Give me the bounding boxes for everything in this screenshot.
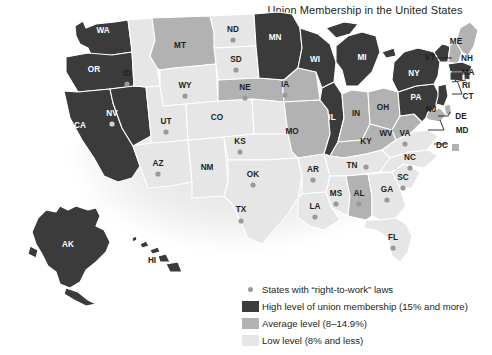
label-WA: WA xyxy=(96,26,109,35)
legend-row-low[interactable]: Low level (8% and less) xyxy=(238,332,490,349)
label-GA: GA xyxy=(381,185,393,194)
map-figure: Union Membership in the United States xyxy=(0,0,492,355)
label-UT: UT xyxy=(161,117,172,126)
label-VT: VT xyxy=(425,53,435,62)
rtw-dot-KS xyxy=(237,149,242,154)
label-NM: NM xyxy=(201,163,214,172)
label-DE: DE xyxy=(455,112,467,121)
label-NC: NC xyxy=(404,153,416,162)
label-MI: MI xyxy=(357,53,366,62)
label-MT: MT xyxy=(174,41,186,50)
label-PA: PA xyxy=(411,93,422,102)
label-OH: OH xyxy=(377,103,389,112)
label-MN: MN xyxy=(269,33,282,42)
label-AZ: AZ xyxy=(153,159,164,168)
state-TX[interactable] xyxy=(224,158,302,244)
state-NJ[interactable] xyxy=(436,84,448,106)
label-SC: SC xyxy=(397,173,408,182)
rtw-dot-AR xyxy=(310,177,315,182)
state-HI[interactable] xyxy=(132,236,182,272)
label-NH: NH xyxy=(461,54,473,63)
label-OK: OK xyxy=(247,170,259,179)
label-ME: ME xyxy=(450,37,463,46)
rtw-dot-FL xyxy=(390,245,395,250)
label-NJ: NJ xyxy=(426,105,436,114)
swatch-high-icon xyxy=(238,301,262,312)
label-NE: NE xyxy=(239,83,251,92)
label-SD: SD xyxy=(230,55,241,64)
label-AR: AR xyxy=(307,165,319,174)
label-KY: KY xyxy=(360,137,372,146)
rtw-dot-SD xyxy=(233,67,238,72)
swatch-average-icon xyxy=(238,318,262,329)
label-AK: AK xyxy=(62,240,74,249)
label-TX: TX xyxy=(236,205,247,214)
rtw-dot-TN xyxy=(363,164,368,169)
rtw-dot-icon xyxy=(238,287,262,292)
legend-label-average: Average level (8–14.9%) xyxy=(262,319,367,329)
rtw-dot-IA xyxy=(282,92,287,97)
label-CO: CO xyxy=(211,113,224,122)
legend-row-high[interactable]: High level of union membership (15% and … xyxy=(238,298,490,315)
label-OR: OR xyxy=(88,65,100,74)
label-IN: IN xyxy=(352,109,360,118)
rtw-dot-LA xyxy=(312,214,317,219)
rtw-dot-NE xyxy=(242,95,247,100)
dc-marker xyxy=(452,144,459,151)
label-KS: KS xyxy=(234,137,246,146)
state-NE[interactable] xyxy=(218,78,284,102)
rtw-dot-AL xyxy=(356,201,361,206)
legend-label-high: High level of union membership (15% and … xyxy=(262,302,468,312)
label-MA: MA xyxy=(462,68,475,77)
label-WI: WI xyxy=(310,55,320,64)
rtw-dot-ND xyxy=(230,37,235,42)
legend-row-average[interactable]: Average level (8–14.9%) xyxy=(238,315,490,332)
rtw-dot-WY xyxy=(182,93,187,98)
label-NY: NY xyxy=(408,69,420,78)
map-legend: States with “right-to-work” laws High le… xyxy=(238,281,490,349)
rtw-dot-MS xyxy=(333,201,338,206)
label-FL: FL xyxy=(388,233,398,242)
legend-row-right-to-work[interactable]: States with “right-to-work” laws xyxy=(238,281,490,298)
rtw-dot-NC xyxy=(407,165,412,170)
label-HI: HI xyxy=(148,256,156,265)
swatch-low-icon xyxy=(238,335,262,346)
label-MD: MD xyxy=(456,126,469,135)
label-LA: LA xyxy=(310,202,321,211)
legend-label-low: Low level (8% and less) xyxy=(262,336,363,346)
rtw-dot-AZ xyxy=(155,171,160,176)
label-RI: RI xyxy=(462,81,470,90)
label-CA: CA xyxy=(74,121,86,130)
rtw-dot-UT xyxy=(163,129,168,134)
label-MS: MS xyxy=(330,189,343,198)
label-IL: IL xyxy=(328,113,335,122)
label-WY: WY xyxy=(178,81,192,90)
rtw-dot-GA xyxy=(384,197,389,202)
label-IA: IA xyxy=(281,80,289,89)
legend-label-right-to-work: States with “right-to-work” laws xyxy=(262,285,393,295)
state-MN[interactable] xyxy=(254,12,302,80)
label-AL: AL xyxy=(354,189,365,198)
rtw-dot-ID xyxy=(124,81,129,86)
rtw-dot-TX xyxy=(238,218,243,223)
label-ND: ND xyxy=(227,25,239,34)
rtw-dot-SC xyxy=(400,185,405,190)
rtw-dot-OK xyxy=(250,182,255,187)
state-AK[interactable] xyxy=(28,206,110,306)
rtw-dot-VA xyxy=(402,141,407,146)
rtw-dot-NV xyxy=(109,121,114,126)
label-WV: WV xyxy=(379,129,393,138)
label-CT: CT xyxy=(463,92,474,101)
label-DC: DC xyxy=(436,141,448,150)
label-VA: VA xyxy=(400,129,411,138)
label-MO: MO xyxy=(285,127,299,136)
state-KS[interactable] xyxy=(252,99,288,134)
label-NV: NV xyxy=(106,109,118,118)
label-TN: TN xyxy=(347,161,358,170)
label-ID: ID xyxy=(123,69,131,78)
